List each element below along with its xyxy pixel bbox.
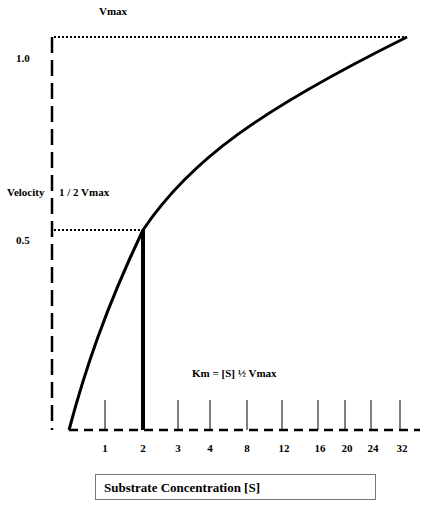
michaelis-menten-plot bbox=[0, 0, 422, 509]
y-tick-0-5: 0.5 bbox=[16, 234, 30, 246]
x-tick-label: 24 bbox=[368, 442, 379, 454]
y-tick-1-0: 1.0 bbox=[16, 52, 30, 64]
km-label: Km = [S] ½ Vmax bbox=[192, 367, 277, 379]
x-tick-label: 1 bbox=[102, 442, 108, 454]
x-tick-marks bbox=[105, 400, 400, 430]
x-axis-title-box: Substrate Concentration [S] bbox=[95, 474, 376, 500]
vmax-label: Vmax bbox=[99, 5, 127, 17]
x-tick-label: 12 bbox=[279, 442, 290, 454]
x-tick-label: 8 bbox=[244, 442, 250, 454]
x-tick-label: 16 bbox=[315, 442, 326, 454]
x-axis-title: Substrate Concentration [S] bbox=[104, 480, 260, 496]
x-tick-label: 4 bbox=[207, 442, 213, 454]
half-vmax-label: 1 / 2 Vmax bbox=[59, 186, 109, 198]
x-tick-label: 2 bbox=[140, 442, 146, 454]
x-tick-label: 20 bbox=[342, 442, 353, 454]
x-tick-label: 32 bbox=[397, 442, 408, 454]
x-tick-label: 3 bbox=[175, 442, 181, 454]
velocity-axis-label: Velocity bbox=[7, 186, 44, 198]
